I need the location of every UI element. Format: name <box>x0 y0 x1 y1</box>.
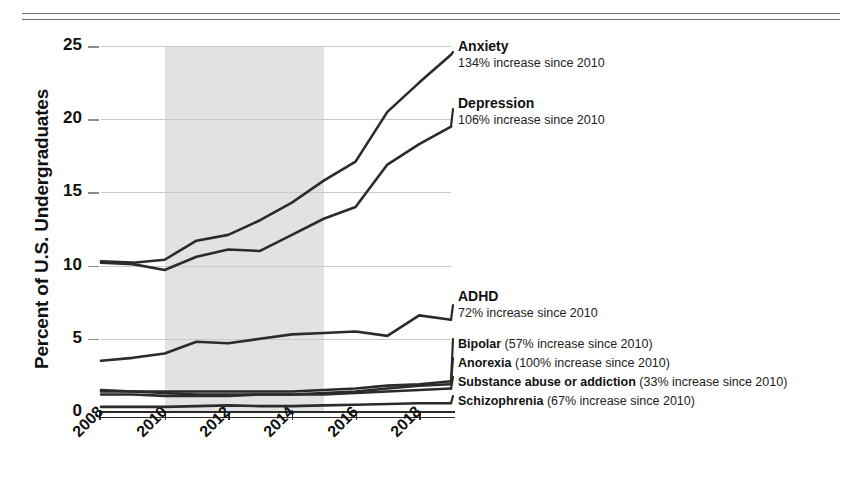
y-tick-dash-10 <box>88 266 99 268</box>
annotation-bipolar-detail: (57% increase since 2010) <box>505 337 653 351</box>
leader-bipolar <box>451 339 453 381</box>
annotation-anxiety-title: Anxiety <box>458 38 605 55</box>
y-tick-label-5: 5 <box>42 328 82 348</box>
annotation-anorexia-detail: (100% increase since 2010) <box>515 356 670 370</box>
y-tick-dash-20 <box>88 119 99 121</box>
annotation-anorexia: Anorexia (100% increase since 2010) <box>458 355 670 371</box>
plot-area <box>101 46 451 412</box>
annotation-anxiety-sub: 134% increase since 2010 <box>458 55 605 71</box>
annotation-substance-detail: (33% increase since 2010) <box>639 375 787 389</box>
shaded-region <box>165 46 324 412</box>
leader-depression <box>451 109 453 127</box>
annotation-depression-title: Depression <box>458 95 605 112</box>
y-tick-label-15: 15 <box>42 181 82 201</box>
y-tick-dash-25 <box>88 46 99 48</box>
chart-figure: Percent of U.S. Undergraduates 051015202… <box>0 0 864 488</box>
annotation-schizophrenia-name: Schizophrenia <box>458 394 543 408</box>
annotation-adhd-title: ADHD <box>458 288 598 305</box>
gridline-10 <box>101 266 451 267</box>
leader-schizophrenia <box>451 396 453 403</box>
gridline-25 <box>101 46 451 47</box>
y-tick-dash-15 <box>88 192 99 194</box>
header-rule-top <box>22 13 840 14</box>
y-tick-label-0: 0 <box>42 401 82 421</box>
annotation-anxiety: Anxiety 134% increase since 2010 <box>458 38 605 71</box>
y-tick-label-25: 25 <box>42 35 82 55</box>
leader-adhd <box>451 305 453 320</box>
leader-anorexia <box>451 358 453 384</box>
annotation-schizophrenia-detail: (67% increase since 2010) <box>547 394 695 408</box>
annotation-depression-sub: 106% increase since 2010 <box>458 112 605 128</box>
header-rule-bottom <box>22 19 840 20</box>
gridline-20 <box>101 119 451 120</box>
annotation-substance: Substance abuse or addiction (33% increa… <box>458 374 787 390</box>
y-tick-dash-5 <box>88 339 99 341</box>
annotation-adhd-sub: 72% increase since 2010 <box>458 305 598 321</box>
leader-anxiety <box>451 52 453 55</box>
annotation-adhd: ADHD 72% increase since 2010 <box>458 288 598 321</box>
y-tick-label-20: 20 <box>42 108 82 128</box>
gridline-15 <box>101 192 451 193</box>
annotation-schizophrenia: Schizophrenia (67% increase since 2010) <box>458 393 695 409</box>
y-tick-label-10: 10 <box>42 255 82 275</box>
y-axis-title: Percent of U.S. Undergraduates <box>31 39 53 419</box>
annotation-anorexia-name: Anorexia <box>458 356 512 370</box>
gridline-5 <box>101 339 451 340</box>
annotation-depression: Depression 106% increase since 2010 <box>458 95 605 128</box>
leader-substance-abuse-or-addiction <box>451 377 453 389</box>
annotation-bipolar: Bipolar (57% increase since 2010) <box>458 336 653 352</box>
annotation-bipolar-name: Bipolar <box>458 337 501 351</box>
annotation-substance-name: Substance abuse or addiction <box>458 375 636 389</box>
